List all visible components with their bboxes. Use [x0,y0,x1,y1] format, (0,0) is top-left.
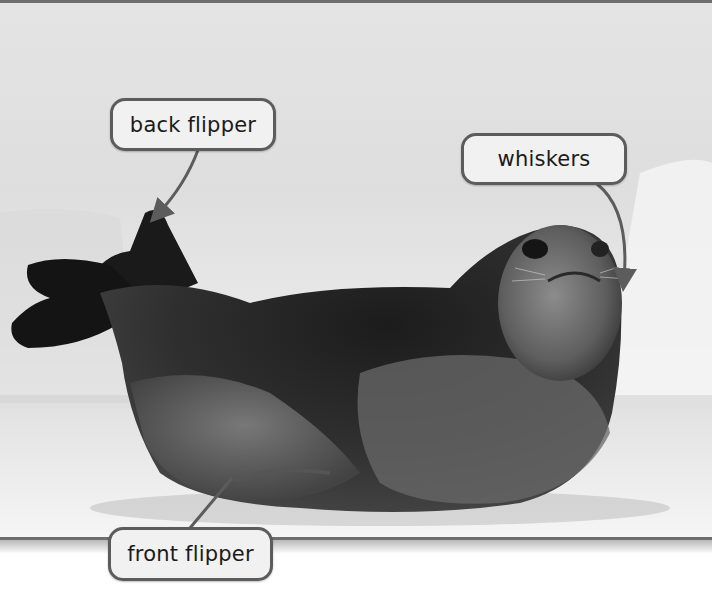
photo-shadow [0,540,712,554]
seal-illustration [0,3,712,540]
label-back-flipper: back flipper [110,98,276,151]
label-whiskers-text: whiskers [498,147,591,171]
label-front-flipper: front flipper [108,527,273,581]
label-front-flipper-text: front flipper [127,542,254,566]
label-whiskers: whiskers [461,133,627,185]
seal-photo [0,0,712,540]
label-back-flipper-text: back flipper [130,113,256,137]
